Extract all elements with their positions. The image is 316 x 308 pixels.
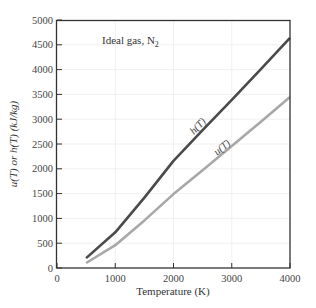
- y-tick-label: 500: [37, 238, 53, 249]
- y-tick-label: 2000: [32, 163, 53, 174]
- x-tick-label: 4000: [280, 273, 301, 284]
- y-tick-label: 3500: [32, 89, 53, 100]
- y-tick-label: 2500: [32, 139, 53, 150]
- x-tick-label: 0: [54, 273, 59, 284]
- y-tick-label: 4000: [32, 64, 53, 75]
- h-curve: [86, 38, 290, 258]
- y-axis-ticks: 0500100015002000250030003500400045005000: [32, 15, 62, 274]
- y-tick-label: 4500: [32, 39, 53, 50]
- curves: [86, 38, 290, 263]
- x-axis-ticks: 01000200030004000: [54, 263, 300, 284]
- x-axis-title: Temperature (K): [136, 285, 210, 298]
- u-curve: [86, 97, 290, 263]
- y-tick-label: 0: [48, 263, 53, 274]
- y-tick-label: 1000: [32, 213, 53, 224]
- y-tick-label: 5000: [32, 15, 53, 26]
- x-tick-label: 1000: [105, 273, 126, 284]
- chart: 0500100015002000250030003500400045005000…: [0, 0, 316, 308]
- y-tick-label: 3000: [32, 114, 53, 125]
- x-tick-label: 3000: [221, 273, 242, 284]
- grid-lines: [57, 20, 290, 268]
- y-axis-title: u(T) or h(T) (kJ/kg): [7, 100, 20, 187]
- y-tick-label: 1500: [32, 188, 53, 199]
- x-tick-label: 2000: [163, 273, 184, 284]
- annotation-ideal-gas: Ideal gas, N2: [102, 34, 159, 49]
